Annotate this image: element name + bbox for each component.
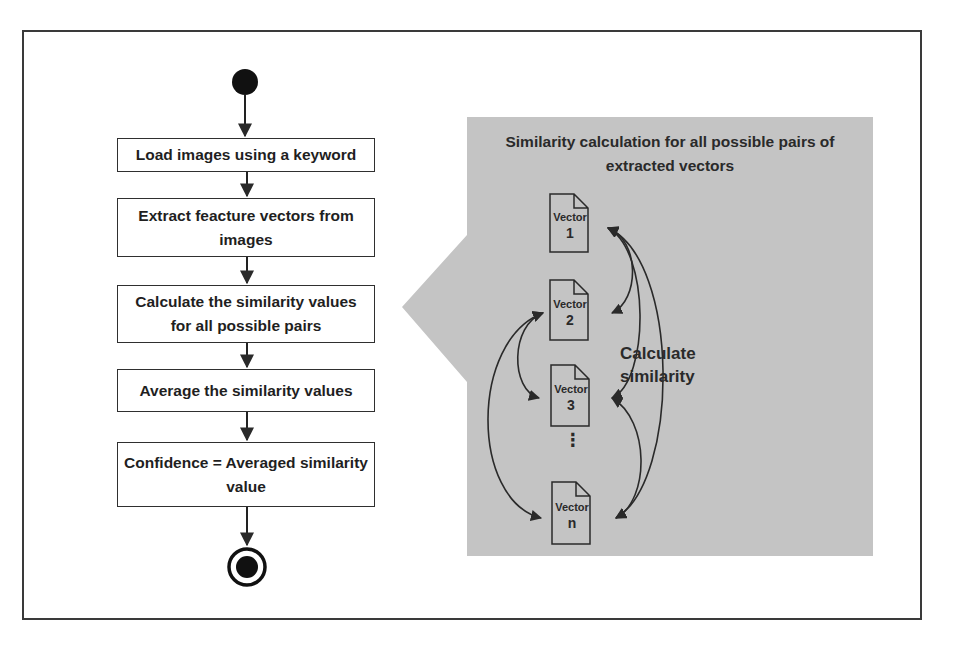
vector-index: 2 [550, 312, 590, 328]
step-average-values: Average the similarity values [117, 369, 375, 412]
vector-index: 3 [551, 397, 591, 413]
vector-item-n: Vector n [552, 484, 597, 548]
end-node-dot [236, 556, 258, 578]
callout-title: Similarity calculation for all possible … [500, 130, 840, 178]
step-label: Confidence = Averaged similarity value [124, 451, 368, 499]
vector-item-3: Vector 3 [551, 366, 596, 430]
vector-index: n [552, 515, 592, 531]
step-label: Load images using a keyword [136, 143, 357, 167]
start-node [232, 69, 258, 95]
step-label: Calculate the similarity values for all … [124, 290, 368, 338]
step-label: Extract feacture vectors from images [124, 204, 368, 252]
vector-item-1: Vector 1 [550, 194, 595, 258]
ellipsis: ⋮ [564, 437, 574, 444]
step-load-images: Load images using a keyword [117, 138, 375, 172]
step-calculate-similarity: Calculate the similarity values for all … [117, 285, 375, 343]
vector-item-2: Vector 2 [550, 281, 595, 345]
step-label: Average the similarity values [139, 379, 352, 403]
vector-label: Vector [551, 383, 591, 395]
vector-label: Vector [550, 211, 590, 223]
vector-index: 1 [550, 225, 590, 241]
step-confidence: Confidence = Averaged similarity value [117, 442, 375, 507]
vector-label: Vector [550, 298, 590, 310]
calculate-similarity-label: Calculate similarity [620, 342, 740, 388]
step-extract-vectors: Extract feacture vectors from images [117, 198, 375, 257]
vector-label: Vector [552, 501, 592, 513]
